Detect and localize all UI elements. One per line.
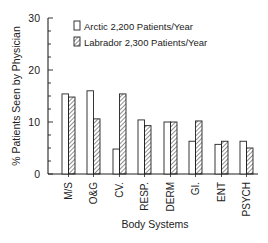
x-category-label: RESP. <box>139 182 150 211</box>
bar-chart: 0102030 M/SO&GCV.RESP.DERMGI.ENTPSYCH % … <box>0 0 268 243</box>
bar-labrador <box>247 148 254 174</box>
x-category-label: CV. <box>114 182 125 198</box>
y-tick-label: 30 <box>28 12 40 24</box>
x-category-label: M/S <box>63 182 74 200</box>
bar-arctic <box>138 120 145 174</box>
bar-labrador <box>222 141 229 174</box>
bar-arctic <box>62 94 69 174</box>
bar-arctic <box>215 144 222 174</box>
bar-labrador <box>145 126 152 174</box>
legend-swatch-arctic <box>74 21 80 30</box>
x-category-label: DERM <box>165 182 176 211</box>
bar-labrador <box>120 94 127 174</box>
legend-label-arctic: Arctic 2,200 Patients/Year <box>84 21 193 32</box>
y-tick-label: 10 <box>28 116 40 128</box>
bar-labrador <box>171 122 178 174</box>
legend-swatch-labrador <box>74 37 80 46</box>
x-category-label: PSYCH <box>241 182 252 216</box>
y-tick-label: 20 <box>28 64 40 76</box>
x-category-label: ENT <box>216 182 227 202</box>
bars <box>62 91 253 174</box>
bar-labrador <box>69 97 76 174</box>
bar-arctic <box>113 149 120 174</box>
bar-arctic <box>164 122 171 174</box>
bar-arctic <box>189 141 196 174</box>
bar-arctic <box>240 141 247 174</box>
x-category-label: GI. <box>190 182 201 195</box>
legend-label-labrador: Labrador 2,300 Patients/Year <box>84 37 207 48</box>
bar-arctic <box>87 91 94 174</box>
x-axis-label: Body Systems <box>121 218 188 230</box>
bar-labrador <box>196 121 203 174</box>
y-axis-label: % Patients Seen by Physician <box>10 26 22 166</box>
x-category-label: O&G <box>88 182 99 204</box>
y-tick-label: 0 <box>34 168 40 180</box>
legend: Arctic 2,200 Patients/Year Labrador 2,30… <box>74 21 207 48</box>
y-ticks: 0102030 <box>28 12 53 180</box>
bar-labrador <box>94 119 101 174</box>
x-category-labels: M/SO&GCV.RESP.DERMGI.ENTPSYCH <box>63 174 252 216</box>
